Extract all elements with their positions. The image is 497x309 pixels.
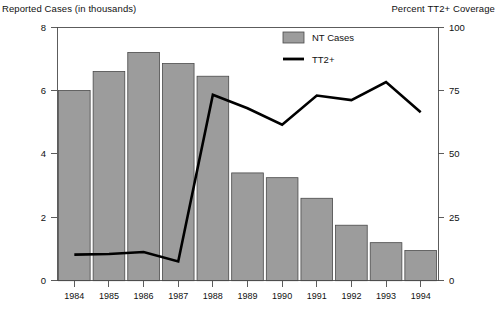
x-tick-label-1985: 1985 — [99, 291, 119, 301]
right-axis-ticks: 0255075100 — [438, 22, 465, 287]
x-tick-label-1984: 1984 — [64, 291, 84, 301]
bar-1992 — [336, 225, 368, 280]
right-axis-title: Percent TT2+ Coverage — [391, 3, 495, 14]
right-tick-label-75: 75 — [449, 85, 460, 96]
bar-1990 — [266, 178, 298, 281]
x-tick-label-1991: 1991 — [307, 291, 327, 301]
x-tick-label-1986: 1986 — [134, 291, 154, 301]
chart-plot-area: 02468 0255075100 19841985198619871988198… — [0, 0, 497, 309]
bar-1988 — [197, 76, 229, 280]
bar-1987 — [162, 64, 194, 281]
left-tick-label-0: 0 — [41, 275, 46, 286]
x-tick-label-1987: 1987 — [168, 291, 188, 301]
x-tick-label-1992: 1992 — [341, 291, 361, 301]
left-tick-label-2: 2 — [41, 212, 46, 223]
left-axis-title: Reported Cases (in thousands) — [2, 3, 136, 14]
x-tick-label-1990: 1990 — [272, 291, 292, 301]
left-tick-label-4: 4 — [41, 148, 46, 159]
x-tick-label-1989: 1989 — [237, 291, 257, 301]
legend-label-tt2: TT2+ — [312, 54, 335, 65]
left-tick-label-8: 8 — [41, 22, 46, 33]
legend-label-nt-cases: NT Cases — [312, 32, 354, 43]
right-tick-label-0: 0 — [449, 275, 454, 286]
x-axis-ticks: 1984198519861987198819891990199119921993… — [64, 281, 430, 301]
right-tick-label-100: 100 — [449, 22, 465, 33]
bar-1989 — [232, 173, 264, 281]
x-tick-label-1988: 1988 — [203, 291, 223, 301]
left-axis-ticks: 02468 — [41, 22, 57, 287]
bar-1993 — [370, 243, 402, 281]
left-tick-label-6: 6 — [41, 85, 46, 96]
bar-1986 — [128, 52, 160, 280]
chart-container: Reported Cases (in thousands) Percent TT… — [0, 0, 497, 309]
bar-1984 — [59, 91, 91, 281]
bar-1994 — [405, 251, 437, 281]
x-tick-label-1993: 1993 — [376, 291, 396, 301]
legend-bar-swatch-icon — [283, 32, 304, 43]
right-tick-label-50: 50 — [449, 148, 460, 159]
bar-1985 — [93, 71, 125, 280]
x-tick-label-1994: 1994 — [411, 291, 431, 301]
chart-legend: NT Cases TT2+ — [283, 32, 354, 65]
right-tick-label-25: 25 — [449, 212, 460, 223]
bar-1991 — [301, 198, 333, 280]
